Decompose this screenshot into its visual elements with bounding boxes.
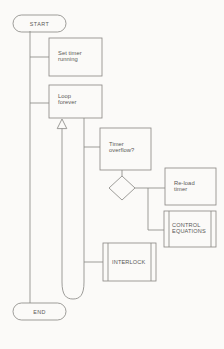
- box-reload-timer: [165, 168, 216, 205]
- box-end: [13, 303, 66, 320]
- box-loop-forever: [49, 85, 102, 118]
- flowchart-graphics: [0, 0, 224, 349]
- flowchart-canvas: START Set timer running Loop forever Tim…: [0, 0, 224, 349]
- connector-loop-return: [62, 128, 84, 299]
- box-start: [13, 15, 66, 32]
- box-interlock: [103, 243, 156, 281]
- box-set-timer: [49, 38, 102, 76]
- loop-return-arrowhead: [57, 119, 67, 129]
- box-control-equations: [164, 211, 216, 247]
- decision-diamond: [109, 176, 135, 200]
- box-timer-overflow: [100, 128, 151, 170]
